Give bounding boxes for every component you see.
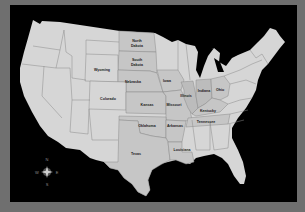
us-map: NorthDakota SouthDakota Wyoming Nebraska… — [0, 0, 305, 212]
state-colorado[interactable] — [89, 81, 126, 110]
label-nebraska: Nebraska — [125, 80, 142, 84]
compass-rose-icon: N S W E — [35, 157, 59, 187]
label-wyoming: Wyoming — [94, 68, 110, 72]
label-kentucky: Kentucky — [200, 109, 216, 113]
label-indiana: Indiana — [198, 89, 212, 93]
label-colorado: Colorado — [100, 97, 117, 101]
label-oklahoma: Oklahoma — [138, 124, 156, 128]
compass-east: E — [56, 170, 59, 175]
compass-south: S — [46, 182, 49, 187]
label-tennessee: Tennessee — [197, 120, 215, 124]
label-texas: Texas — [131, 152, 141, 156]
label-missouri: Missouri — [167, 103, 182, 107]
label-arkansas: Arkansas — [167, 124, 183, 128]
compass-west: W — [35, 170, 39, 175]
label-ohio: Ohio — [216, 88, 225, 92]
label-kansas: Kansas — [141, 103, 154, 107]
label-illinois: Illinois — [180, 94, 191, 98]
label-louisiana: Louisiana — [174, 148, 192, 152]
label-iowa: Iowa — [163, 79, 172, 83]
compass-north: N — [46, 157, 49, 162]
label-south-dakota: SouthDakota — [131, 58, 144, 67]
